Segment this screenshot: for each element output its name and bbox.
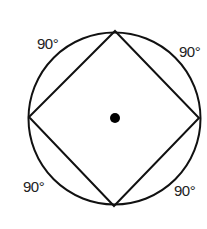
inscribed-square-diagram: 90° 90° 90° 90° <box>0 0 207 229</box>
arc-label-top-right: 90° <box>179 43 201 60</box>
center-point <box>110 113 120 123</box>
arc-label-bottom-right: 90° <box>174 182 196 199</box>
arc-label-bottom-left: 90° <box>23 178 45 195</box>
arc-label-top-left: 90° <box>37 35 59 52</box>
